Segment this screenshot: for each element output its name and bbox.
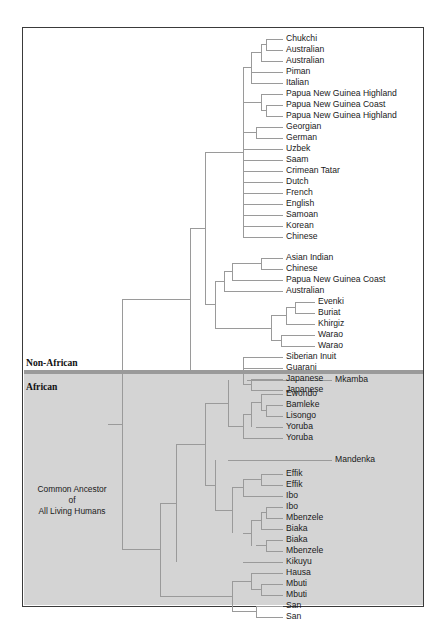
tip-label: Lisongo (286, 410, 316, 420)
ancestor-line-1: Common Ancestor (38, 484, 107, 494)
tip-label: Ibo (286, 490, 298, 500)
tip-label: Asian Indian (286, 252, 334, 262)
tip-label: San (286, 600, 302, 610)
ancestor-line-2: of (69, 495, 77, 505)
tip-label: Mbenzele (286, 545, 323, 555)
tip-label: Uzbek (286, 143, 311, 153)
tip-label: Biaka (286, 523, 308, 533)
tip-label: Warao (318, 340, 343, 350)
tip-label: Ibo (286, 501, 298, 511)
common-ancestor-label: Common Ancestor of All Living Humans (38, 484, 107, 516)
tip-label: Yoruba (286, 421, 313, 431)
tip-label: French (286, 187, 313, 197)
tip-label: Mandenka (335, 454, 375, 464)
tip-label: Japanese (286, 373, 323, 383)
figure-root: ChukchiAustralianAustralianPimanItalianP… (0, 0, 444, 625)
tip-label: Mbuti (286, 578, 307, 588)
tip-label: English (286, 198, 314, 208)
tip-label: Australian (286, 44, 324, 54)
tip-label: Kikuyu (286, 556, 312, 566)
tip-label: Khirgiz (318, 318, 344, 328)
tip-label: Chinese (286, 231, 318, 241)
tip-label: Guarani (286, 362, 317, 372)
tip-label: Georgian (286, 121, 322, 131)
tip-labels: ChukchiAustralianAustralianPimanItalianP… (286, 33, 397, 621)
ancestor-line-3: All Living Humans (38, 506, 105, 516)
tip-label: Ewondo (286, 388, 317, 398)
tip-label: Crimean Tatar (286, 165, 340, 175)
tip-label: Mbenzele (286, 512, 323, 522)
tip-label: Papua New Guinea Coast (286, 99, 386, 109)
phylogenetic-tree-svg: ChukchiAustralianAustralianPimanItalianP… (0, 0, 444, 625)
tip-label: Buriat (318, 307, 341, 317)
tip-label: Siberian Inuit (286, 351, 337, 361)
tip-label: Evenki (318, 296, 344, 306)
tip-label: Papua New Guinea Coast (286, 274, 386, 284)
tip-label: San (286, 611, 302, 621)
tip-label: Samoan (286, 209, 318, 219)
tip-label: Italian (286, 77, 309, 87)
tip-label: Mkamba (335, 374, 368, 384)
tip-label: Warao (318, 329, 343, 339)
tip-label: Yoruba (286, 432, 313, 442)
tip-label: Chinese (286, 263, 318, 273)
tip-label: Saam (286, 154, 308, 164)
tip-label: Korean (286, 220, 314, 230)
group-labels: Non-AfricanAfrican (26, 357, 78, 392)
tip-label: Australian (286, 285, 324, 295)
tip-label: Papua New Guinea Highland (286, 88, 397, 98)
tip-label: Papua New Guinea Highland (286, 110, 397, 120)
tip-label: Hausa (286, 567, 311, 577)
tip-label: Australian (286, 55, 324, 65)
tip-label: Effik (286, 468, 303, 478)
tip-label: Dutch (286, 176, 309, 186)
tip-label: Biaka (286, 534, 308, 544)
tip-label: German (286, 132, 317, 142)
tip-label: Effik (286, 479, 303, 489)
tip-label: Mbuti (286, 589, 307, 599)
tip-label: Chukchi (286, 33, 317, 43)
non-african-label: Non-African (26, 357, 78, 368)
tip-label: Piman (286, 66, 311, 76)
african-label: African (26, 381, 58, 392)
tip-label: Bamleke (286, 399, 320, 409)
